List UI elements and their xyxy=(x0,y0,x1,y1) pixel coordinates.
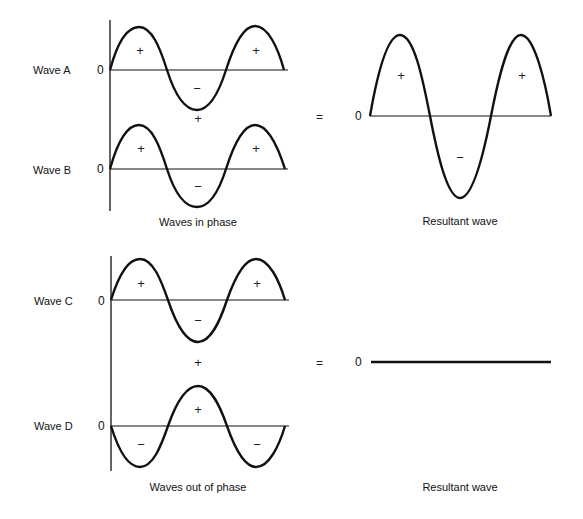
wave-a-curve xyxy=(110,26,284,110)
wave-a-label: Wave A xyxy=(33,64,71,76)
wave-b-positive-sign: + xyxy=(252,142,260,155)
wave-d-positive-sign: + xyxy=(194,403,202,416)
wave-a-positive-sign: + xyxy=(252,44,260,57)
resultant-positive-sign: + xyxy=(397,69,405,82)
wave-c-label: Wave C xyxy=(34,295,73,307)
resultant-in-phase-zero-label: 0 xyxy=(355,110,362,122)
out-of-phase-caption: Waves out of phase xyxy=(150,481,247,493)
wave-b-curve xyxy=(110,125,285,207)
wave-c-zero-label: 0 xyxy=(98,295,105,307)
wave-b-positive-sign: + xyxy=(137,142,145,155)
in-phase-caption: Waves in phase xyxy=(159,216,237,228)
wave-d-zero-label: 0 xyxy=(98,420,105,432)
wave-b-label: Wave B xyxy=(33,164,71,176)
wave-d-negative-sign: − xyxy=(253,438,261,451)
resultant-out-of-phase-zero-label: 0 xyxy=(355,356,362,368)
wave-b-negative-sign: − xyxy=(194,180,202,193)
wave-c-positive-sign: + xyxy=(253,277,261,290)
equals-sign-in-phase: = xyxy=(316,111,323,123)
plus-operator-in-phase: + xyxy=(194,112,202,125)
wave-drawing xyxy=(0,0,583,519)
wave-c-positive-sign: + xyxy=(137,277,145,290)
wave-interference-diagram: Wave A 0 Wave B 0 Wave C 0 Wave D 0 + − … xyxy=(0,0,583,519)
wave-d-negative-sign: − xyxy=(137,438,145,451)
resultant-out-of-phase-caption: Resultant wave xyxy=(422,481,497,493)
equals-sign-out-of-phase: = xyxy=(316,357,323,369)
plus-operator-out-of-phase: + xyxy=(194,356,202,369)
resultant-positive-sign: + xyxy=(518,69,526,82)
wave-a-zero-label: 0 xyxy=(97,64,104,76)
wave-b-zero-label: 0 xyxy=(97,163,104,175)
resultant-in-phase-caption: Resultant wave xyxy=(422,215,497,227)
wave-d-label: Wave D xyxy=(34,420,73,432)
wave-a-negative-sign: − xyxy=(193,82,201,95)
resultant-negative-sign: − xyxy=(456,151,464,164)
wave-a-positive-sign: + xyxy=(136,44,144,57)
wave-c-negative-sign: − xyxy=(194,314,202,327)
